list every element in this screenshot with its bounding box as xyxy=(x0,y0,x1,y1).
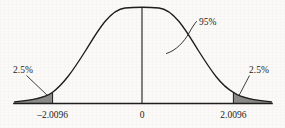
right-tail-leader-line xyxy=(239,76,250,96)
x-tick-label-right: 2.0096 xyxy=(220,110,246,120)
x-tick-label-center: 0 xyxy=(140,110,145,120)
left-tail-leader-line xyxy=(27,76,48,96)
normal-curve xyxy=(15,7,272,102)
x-tick-label-left: –2.0096 xyxy=(36,110,68,120)
right-tail-percent-label: 2.5% xyxy=(249,65,269,75)
normal-distribution-figure: 2.5% 2.5% 95% –2.0096 0 2.0096 xyxy=(0,0,285,128)
distribution-chart-canvas: 2.5% 2.5% 95% –2.0096 0 2.0096 xyxy=(0,0,285,128)
left-tail-percent-label: 2.5% xyxy=(13,65,33,75)
center-area-percent-label: 95% xyxy=(199,17,217,27)
center-area-leader-arc xyxy=(167,22,197,54)
